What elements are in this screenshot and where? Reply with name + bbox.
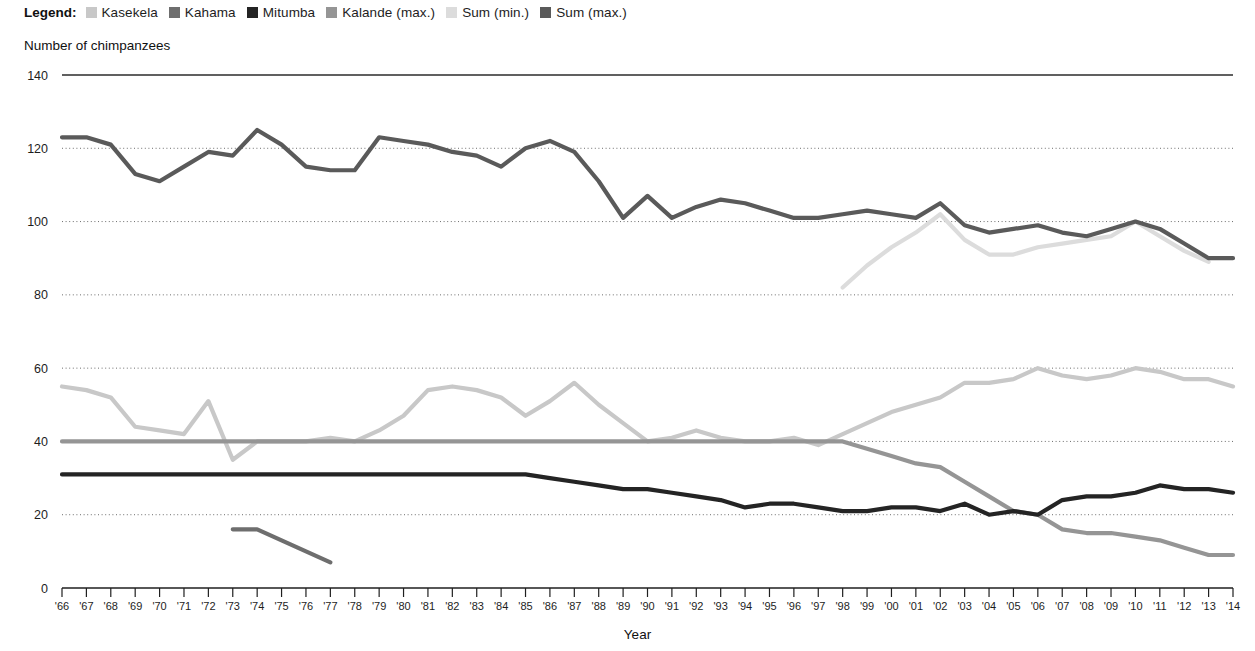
svg-text:0: 0 xyxy=(41,582,48,596)
chart-plot-area: 020406080100120140 '66'67'68'69'70'71'72… xyxy=(0,0,1255,651)
svg-text:'94: '94 xyxy=(738,600,752,612)
svg-text:'85: '85 xyxy=(518,600,532,612)
svg-text:'00: '00 xyxy=(884,600,898,612)
svg-text:'87: '87 xyxy=(567,600,581,612)
svg-text:'78: '78 xyxy=(348,600,362,612)
svg-text:20: 20 xyxy=(34,508,48,522)
svg-text:'96: '96 xyxy=(787,600,801,612)
svg-text:'09: '09 xyxy=(1104,600,1118,612)
svg-text:'86: '86 xyxy=(543,600,557,612)
svg-text:'05: '05 xyxy=(1006,600,1020,612)
svg-text:'14: '14 xyxy=(1226,600,1240,612)
svg-text:'10: '10 xyxy=(1128,600,1142,612)
series-line-kahama xyxy=(233,529,331,562)
svg-text:'81: '81 xyxy=(421,600,435,612)
svg-text:'01: '01 xyxy=(909,600,923,612)
svg-text:140: 140 xyxy=(27,69,48,83)
svg-text:'97: '97 xyxy=(811,600,825,612)
svg-text:'13: '13 xyxy=(1201,600,1215,612)
svg-text:'82: '82 xyxy=(445,600,459,612)
svg-text:'91: '91 xyxy=(665,600,679,612)
svg-text:'75: '75 xyxy=(274,600,288,612)
svg-text:'69: '69 xyxy=(128,600,142,612)
svg-text:'89: '89 xyxy=(616,600,630,612)
svg-text:'06: '06 xyxy=(1031,600,1045,612)
series-line-kasekela xyxy=(62,368,1233,460)
svg-text:'11: '11 xyxy=(1153,600,1167,612)
svg-text:'83: '83 xyxy=(470,600,484,612)
svg-text:'92: '92 xyxy=(689,600,703,612)
svg-text:'03: '03 xyxy=(957,600,971,612)
svg-text:'02: '02 xyxy=(933,600,947,612)
y-tick-labels: 020406080100120140 xyxy=(27,69,48,596)
svg-text:80: 80 xyxy=(34,288,48,302)
svg-text:60: 60 xyxy=(34,362,48,376)
svg-text:'80: '80 xyxy=(396,600,410,612)
x-axis-ticks xyxy=(62,588,1233,597)
series-line-sum-max xyxy=(62,130,1233,258)
svg-text:'68: '68 xyxy=(104,600,118,612)
x-axis-title: Year xyxy=(0,627,1255,642)
svg-text:'70: '70 xyxy=(152,600,166,612)
svg-text:'08: '08 xyxy=(1079,600,1093,612)
svg-text:'66: '66 xyxy=(55,600,69,612)
svg-text:'67: '67 xyxy=(79,600,93,612)
svg-text:'90: '90 xyxy=(640,600,654,612)
svg-text:'71: '71 xyxy=(177,600,191,612)
svg-text:'76: '76 xyxy=(299,600,313,612)
svg-text:'84: '84 xyxy=(494,600,508,612)
x-axis-title-text: Year xyxy=(624,627,651,642)
svg-text:'74: '74 xyxy=(250,600,264,612)
x-tick-labels: '66'67'68'69'70'71'72'73'74'75'76'77'78'… xyxy=(55,600,1240,612)
svg-text:100: 100 xyxy=(27,215,48,229)
series-lines xyxy=(62,130,1233,562)
svg-text:'93: '93 xyxy=(714,600,728,612)
svg-text:'73: '73 xyxy=(226,600,240,612)
svg-text:'98: '98 xyxy=(835,600,849,612)
svg-text:'77: '77 xyxy=(323,600,337,612)
svg-text:40: 40 xyxy=(34,435,48,449)
svg-text:'95: '95 xyxy=(762,600,776,612)
svg-text:'12: '12 xyxy=(1177,600,1191,612)
svg-text:'04: '04 xyxy=(982,600,996,612)
svg-text:120: 120 xyxy=(27,142,48,156)
svg-text:'79: '79 xyxy=(372,600,386,612)
svg-text:'99: '99 xyxy=(860,600,874,612)
series-line-mitumba xyxy=(62,474,1233,514)
svg-text:'88: '88 xyxy=(592,600,606,612)
svg-text:'72: '72 xyxy=(201,600,215,612)
line-chart-svg: 020406080100120140 '66'67'68'69'70'71'72… xyxy=(0,0,1255,651)
svg-text:'07: '07 xyxy=(1055,600,1069,612)
gridlines xyxy=(62,75,1233,515)
